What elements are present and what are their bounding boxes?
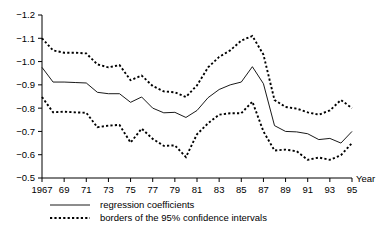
x-tick-label: 87 [258,184,269,195]
x-tick-label: 95 [347,184,358,195]
series-line-1 [42,36,352,115]
y-axis: −1.2−1.1−1.0−0.9−0.8−0.7−0.6−0.5 [16,9,42,183]
data-series-group [42,36,352,160]
x-tick-label: 69 [59,184,70,195]
x-tick-label: 1967 [31,184,52,195]
y-tick-label: −0.8 [16,103,35,114]
x-axis: 19676971737577798183858789919395 [31,178,357,195]
chart-canvas: −1.2−1.1−1.0−0.9−0.8−0.7−0.6−0.5 1967697… [0,0,387,228]
regression-coefficients-chart: −1.2−1.1−1.0−0.9−0.8−0.7−0.6−0.5 1967697… [0,0,387,228]
x-tick-label: 83 [214,184,225,195]
x-tick-label: 85 [236,184,247,195]
x-tick-label: 75 [125,184,136,195]
x-tick-label: 81 [192,184,203,195]
x-tick-label: 77 [147,184,158,195]
x-tick-label: 89 [280,184,291,195]
chart-legend: regression coefficientsborders of the 95… [50,199,267,223]
x-axis-title: Year [356,173,375,184]
legend-label-1: borders of the 95% confidence intervals [100,212,267,223]
y-tick-label: −1.0 [16,56,35,67]
y-tick-label: −1.2 [16,9,35,20]
y-tick-label: −1.1 [16,33,35,44]
y-tick-label: −0.5 [16,172,35,183]
x-tick-label: 93 [325,184,336,195]
series-line-0 [42,67,352,143]
series-line-2 [42,97,352,160]
x-tick-label: 71 [81,184,92,195]
x-tick-label: 91 [302,184,313,195]
x-tick-label: 79 [170,184,181,195]
x-axis-title-group: Year [356,173,375,184]
y-tick-label: −0.9 [16,79,35,90]
x-tick-label: 73 [103,184,114,195]
y-tick-label: −0.7 [16,126,35,137]
y-tick-label: −0.6 [16,149,35,160]
legend-label-0: regression coefficients [100,199,195,210]
